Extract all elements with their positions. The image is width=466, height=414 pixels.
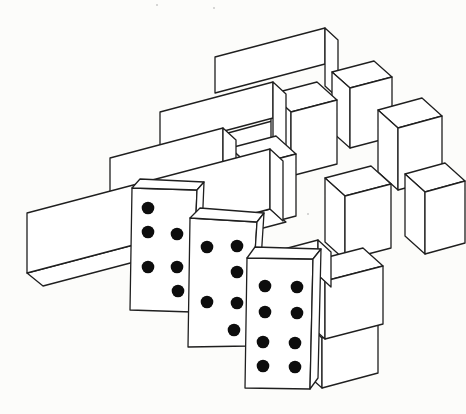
domino-middle-pip — [228, 324, 241, 337]
domino-left-pip — [142, 261, 155, 274]
domino-right-pip — [291, 281, 304, 294]
block-row3-right — [405, 163, 465, 254]
beam-bottom-long-end-face — [270, 149, 283, 221]
scan-speck — [307, 213, 309, 215]
domino-middle-pip — [231, 266, 244, 279]
domino-left-pip — [171, 261, 184, 274]
block-row3-right-front-face — [425, 181, 465, 254]
domino-right-pip — [259, 280, 272, 293]
domino-left-pip — [142, 202, 155, 215]
block-row2-left-front-face — [291, 100, 337, 176]
domino-left-front-face — [130, 188, 197, 312]
domino-left-pip — [142, 226, 155, 239]
scan-speck — [156, 4, 158, 6]
domino-right-front-face — [245, 258, 313, 389]
domino-right-pip — [291, 307, 304, 320]
block-row3-mid-front-face — [345, 184, 391, 260]
domino-right-pip — [257, 336, 270, 349]
dominoes-woodpile-illustration — [0, 0, 466, 414]
domino-right — [245, 247, 321, 389]
domino-right-pip — [257, 360, 270, 373]
domino-middle-pip — [231, 240, 244, 253]
domino-right-pip — [289, 337, 302, 350]
illustration-canvas — [0, 0, 466, 414]
block-row3-mid — [325, 166, 391, 260]
domino-middle-pip — [231, 297, 244, 310]
scan-speck — [213, 7, 215, 9]
domino-middle-pip — [201, 241, 214, 254]
domino-left-pip — [172, 285, 185, 298]
domino-right-pip — [289, 361, 302, 374]
domino-right-pip — [259, 306, 272, 319]
domino-left-pip — [171, 228, 184, 241]
domino-right-top-face — [247, 247, 321, 259]
domino-middle-pip — [201, 296, 214, 309]
